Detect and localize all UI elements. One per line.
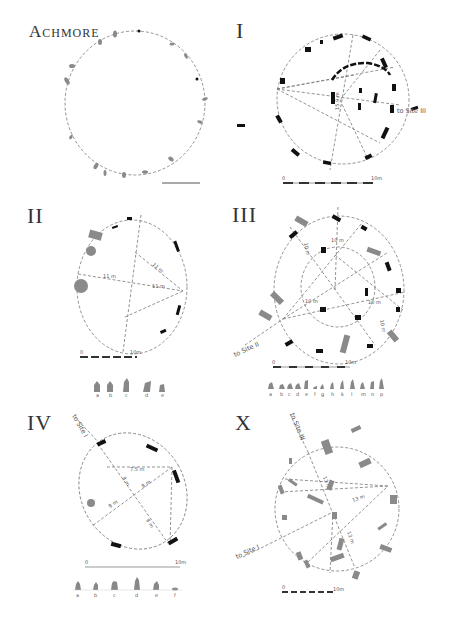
svg-text:10m: 10m bbox=[175, 559, 186, 565]
svg-text:f: f bbox=[174, 592, 176, 598]
achmore-plan bbox=[0, 0, 230, 195]
svg-text:d: d bbox=[145, 392, 148, 398]
panel-achmore: ACHMORE bbox=[0, 0, 230, 195]
site-i-plan: 15.9 m to Site III 0 10m bbox=[225, 0, 467, 195]
svg-text:10 m: 10 m bbox=[368, 299, 381, 305]
svg-text:10m: 10m bbox=[345, 359, 356, 365]
svg-text:g: g bbox=[321, 391, 324, 398]
svg-text:a: a bbox=[96, 392, 99, 398]
svg-text:d: d bbox=[296, 391, 299, 397]
panel-site-iv: IV 7.5 m 8 m 8 m 8 m 8 m to Site I 0 10m bbox=[0, 400, 230, 620]
svg-text:15.9 m: 15.9 m bbox=[334, 92, 340, 110]
svg-text:n: n bbox=[371, 391, 374, 397]
svg-text:e: e bbox=[155, 592, 158, 598]
panel-site-ii: II 11 m 11 m 11 m 0 10m a b c bbox=[0, 195, 230, 400]
svg-text:to Site III: to Site III bbox=[397, 107, 426, 115]
svg-text:7.5 m: 7.5 m bbox=[130, 466, 145, 472]
svg-text:0: 0 bbox=[80, 349, 83, 355]
svg-text:13 m: 13 m bbox=[351, 493, 365, 503]
svg-text:8 m: 8 m bbox=[140, 478, 151, 489]
panel-site-i: I 15.9 m to Site III 0 10m bbox=[225, 0, 467, 195]
svg-text:c: c bbox=[288, 391, 291, 397]
svg-text:0: 0 bbox=[282, 175, 285, 181]
svg-text:m: m bbox=[361, 391, 366, 397]
site-x-plan: 13 m 13 m 13 m to Site III to Site I 0 1… bbox=[225, 400, 467, 620]
svg-text:p: p bbox=[380, 391, 383, 398]
site-iv-plan: 7.5 m 8 m 8 m 8 m 8 m to Site I 0 10m a … bbox=[0, 400, 230, 620]
site-iii-plan: 10 m 10 m 10 m 10 m 10 m to Site II 0 10… bbox=[225, 195, 467, 405]
svg-text:8 m: 8 m bbox=[145, 518, 155, 529]
svg-text:k: k bbox=[341, 391, 344, 397]
svg-text:l: l bbox=[351, 391, 352, 397]
panel-site-x: X 13 m 13 m 13 m to Site III to Site I 0… bbox=[225, 400, 467, 620]
svg-text:f: f bbox=[314, 391, 316, 397]
svg-text:e: e bbox=[305, 391, 308, 397]
svg-text:c: c bbox=[125, 392, 128, 398]
svg-text:10 m: 10 m bbox=[305, 298, 318, 304]
svg-text:13 m: 13 m bbox=[346, 530, 356, 544]
svg-text:h: h bbox=[331, 391, 334, 397]
svg-text:to Site II: to Site II bbox=[232, 340, 260, 359]
svg-text:to Site III: to Site III bbox=[288, 412, 306, 442]
svg-text:10m: 10m bbox=[333, 586, 344, 592]
svg-text:8 m: 8 m bbox=[121, 476, 131, 487]
svg-text:11 m: 11 m bbox=[151, 261, 165, 274]
panel-site-iii: III 10 m 10 m 10 m 10 m 10 m to Site II bbox=[225, 195, 467, 405]
svg-text:d: d bbox=[135, 592, 138, 598]
svg-text:0: 0 bbox=[85, 559, 88, 565]
svg-text:c: c bbox=[113, 592, 116, 598]
site-ii-plan: 11 m 11 m 11 m 0 10m a b c d e bbox=[0, 195, 230, 400]
svg-text:10m: 10m bbox=[371, 175, 382, 181]
svg-text:a: a bbox=[269, 391, 272, 397]
svg-text:b: b bbox=[280, 391, 283, 397]
svg-text:11 m: 11 m bbox=[152, 283, 165, 289]
svg-text:10 m: 10 m bbox=[331, 237, 344, 243]
svg-text:0: 0 bbox=[272, 359, 275, 365]
svg-text:to Site I: to Site I bbox=[70, 413, 89, 439]
svg-text:10m: 10m bbox=[130, 349, 141, 355]
svg-text:a: a bbox=[76, 592, 79, 598]
svg-text:10 m: 10 m bbox=[379, 319, 387, 333]
svg-text:8 m: 8 m bbox=[107, 498, 118, 509]
svg-text:b: b bbox=[109, 392, 112, 398]
svg-text:11 m: 11 m bbox=[103, 273, 116, 279]
svg-text:to Site I: to Site I bbox=[234, 543, 260, 561]
svg-text:10 m: 10 m bbox=[303, 242, 311, 256]
svg-text:e: e bbox=[161, 392, 164, 398]
svg-text:b: b bbox=[94, 592, 97, 598]
svg-text:0: 0 bbox=[282, 584, 285, 590]
